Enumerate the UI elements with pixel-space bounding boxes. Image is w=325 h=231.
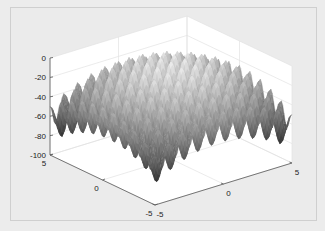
z-tick-mark-1 <box>50 77 53 78</box>
z-tick-label-3: -60 <box>34 112 46 121</box>
x-tick-label-0: -5 <box>156 210 164 219</box>
x-tick-label-2: 5 <box>295 168 300 177</box>
z-tick-label-4: -80 <box>34 132 46 141</box>
z-tick-label-0: 0 <box>42 54 47 63</box>
y-tick-label-2: 5 <box>42 159 47 168</box>
y-tick-label-0: -5 <box>145 209 153 218</box>
z-tick-mark-2 <box>50 96 53 97</box>
z-tick-label-2: -40 <box>34 93 46 102</box>
z-tick-label-1: -20 <box>34 73 46 82</box>
x-tick-label-1: 0 <box>226 189 231 198</box>
z-tick-mark-3 <box>50 116 53 117</box>
y-tick-label-1: 0 <box>94 184 99 193</box>
z-tick-mark-4 <box>50 135 53 136</box>
surface-chart[interactable]: 0 -20 -40 -60 -80 -100 -5 0 5 -5 0 5 <box>0 0 325 231</box>
z-tick-mark-0 <box>50 58 53 59</box>
